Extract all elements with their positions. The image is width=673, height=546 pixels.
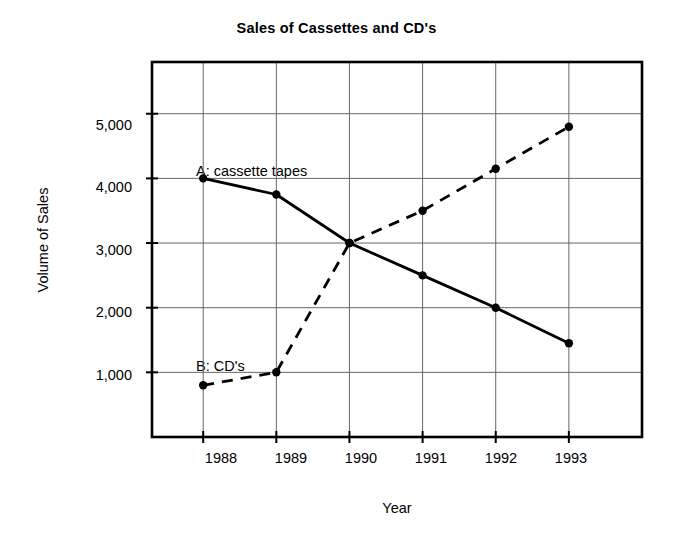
data-point-marker-cds (272, 368, 280, 376)
data-point-marker-cassette-tapes (492, 304, 500, 312)
data-point-marker-cassette-tapes (418, 271, 426, 279)
data-point-marker-cds (565, 123, 573, 131)
series-line-cassette-tapes (203, 178, 569, 343)
axis-ticks-group (146, 114, 569, 443)
data-point-marker-cds (345, 239, 353, 247)
data-point-marker-cassette-tapes (272, 190, 280, 198)
data-point-marker-cds (199, 381, 207, 389)
series-line-cds (203, 127, 569, 386)
series-layer (199, 123, 573, 390)
chart-figure: Sales of Cassettes and CD's Volume of Sa… (0, 0, 673, 546)
data-point-marker-cassette-tapes (199, 174, 207, 182)
plot-area (0, 0, 673, 546)
data-point-marker-cds (492, 165, 500, 173)
data-point-marker-cassette-tapes (565, 339, 573, 347)
data-point-marker-cds (418, 207, 426, 215)
